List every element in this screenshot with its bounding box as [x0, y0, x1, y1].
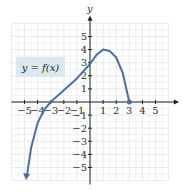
svg-text:5: 5	[152, 105, 158, 116]
svg-text:−3: −3	[72, 136, 87, 147]
svg-text:−2: −2	[72, 123, 87, 134]
svg-text:5: 5	[81, 31, 87, 42]
svg-text:−5: −5	[72, 162, 87, 173]
plot-area: xy−5−4−3−2−11234554321−1−2−3−4−5	[0, 0, 183, 191]
svg-text:−4: −4	[72, 149, 87, 160]
function-label: y = f(x)	[16, 57, 65, 77]
svg-text:1: 1	[81, 83, 87, 94]
svg-text:4: 4	[81, 44, 87, 55]
svg-text:3: 3	[126, 105, 132, 116]
svg-text:−1: −1	[72, 110, 87, 121]
svg-text:2: 2	[113, 105, 119, 116]
graph: xy−5−4−3−2−11234554321−1−2−3−4−5 y = f(x…	[0, 0, 183, 191]
svg-text:4: 4	[139, 105, 145, 116]
svg-text:1: 1	[100, 105, 106, 116]
svg-text:y: y	[86, 3, 93, 14]
svg-text:3: 3	[81, 57, 87, 68]
